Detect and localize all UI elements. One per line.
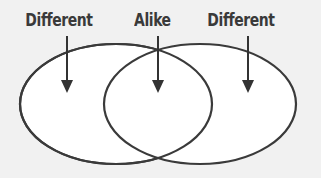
venn-diagram: Different Alike Different — [0, 0, 321, 178]
label-different-left: Different — [25, 10, 92, 30]
label-different-right: Different — [207, 10, 274, 30]
label-alike: Alike — [134, 10, 171, 30]
